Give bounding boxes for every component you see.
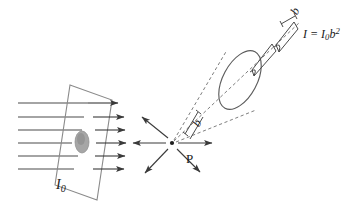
blob-core xyxy=(77,133,85,145)
cone-edge-lower xyxy=(176,110,256,142)
scattering-diagram: I0 P I = I0b2 b b xyxy=(0,0,353,217)
bracket-far-tick-a xyxy=(280,21,283,27)
beam-width-bracket-far xyxy=(280,13,297,27)
formula-rhs-exponent: 2 xyxy=(335,26,339,36)
point-p-marker xyxy=(170,141,174,145)
diagram-canvas xyxy=(0,0,353,217)
wave-cone-group xyxy=(250,22,298,76)
formula-eq: = xyxy=(307,27,321,41)
label-incident-intensity: I0 xyxy=(56,178,66,194)
cone-cross-section-ellipse xyxy=(210,44,270,116)
arrow-up-left xyxy=(142,117,168,138)
scatterer-blob xyxy=(75,131,89,153)
label-point-p: P xyxy=(186,152,193,165)
wave-cone-far xyxy=(276,22,298,52)
label-intensity-formula: I = I0b2 xyxy=(303,27,340,42)
arrow-down-left xyxy=(145,149,168,173)
label-i0-subscript: 0 xyxy=(61,183,66,194)
